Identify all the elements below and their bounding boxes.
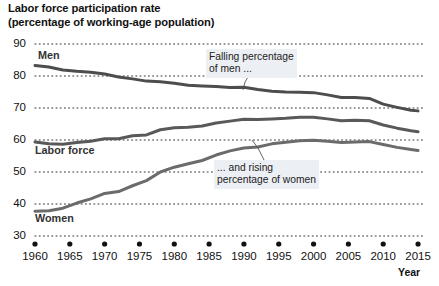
x-tick-marks — [32, 241, 420, 246]
men-annotation: Falling percentage of men ... — [206, 49, 297, 78]
x-tick-label: 2015 — [398, 250, 438, 262]
y-tick-label: 30 — [4, 229, 26, 241]
women-annotation: ... and rising percentage of women — [214, 160, 319, 189]
chart-container: Labor force participation rate (percenta… — [0, 0, 439, 286]
y-tick-label: 80 — [4, 69, 26, 81]
men-annotation-line2: of men ... — [209, 63, 294, 75]
y-tick-label: 60 — [4, 133, 26, 145]
women-annotation-line1: ... and rising — [217, 162, 316, 174]
series-label-labor-force: Labor force — [35, 144, 94, 156]
y-tick-label: 70 — [4, 101, 26, 113]
women-annotation-line2: percentage of women — [217, 174, 316, 186]
y-tick-label: 50 — [4, 165, 26, 177]
x-axis-title: Year — [398, 266, 420, 278]
men-annotation-line1: Falling percentage — [209, 51, 294, 63]
chart-plot-area — [0, 0, 439, 286]
series-line-labor-force — [35, 117, 418, 144]
series-lines — [35, 65, 418, 211]
series-label-men: Men — [38, 49, 60, 61]
series-label-women: Women — [35, 212, 74, 224]
y-tick-label: 90 — [4, 37, 26, 49]
women-leader-line — [252, 140, 264, 160]
y-tick-label: 40 — [4, 197, 26, 209]
